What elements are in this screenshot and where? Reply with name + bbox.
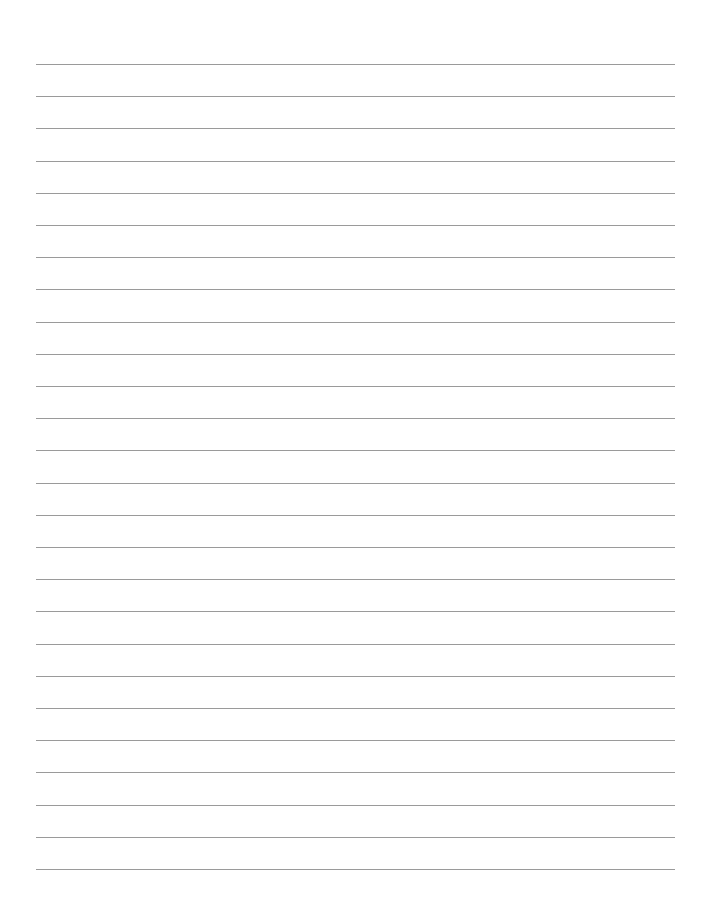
ruled-line: [36, 386, 675, 387]
ruled-line: [36, 418, 675, 419]
ruled-line: [36, 740, 675, 741]
ruled-line: [36, 257, 675, 258]
ruled-line: [36, 483, 675, 484]
ruled-line: [36, 805, 675, 806]
ruled-line: [36, 772, 675, 773]
ruled-line: [36, 225, 675, 226]
ruled-line: [36, 64, 675, 65]
ruled-line: [36, 96, 675, 97]
ruled-line: [36, 161, 675, 162]
ruled-line: [36, 869, 675, 870]
ruled-line: [36, 450, 675, 451]
ruled-line: [36, 708, 675, 709]
ruled-line: [36, 515, 675, 516]
ruled-line: [36, 676, 675, 677]
ruled-line: [36, 322, 675, 323]
ruled-line: [36, 837, 675, 838]
ruled-line: [36, 289, 675, 290]
ruled-line: [36, 354, 675, 355]
ruled-line: [36, 547, 675, 548]
ruled-line: [36, 579, 675, 580]
ruled-line: [36, 644, 675, 645]
ruled-line: [36, 611, 675, 612]
ruled-line: [36, 193, 675, 194]
ruled-line: [36, 128, 675, 129]
lined-paper-page: [0, 0, 709, 910]
